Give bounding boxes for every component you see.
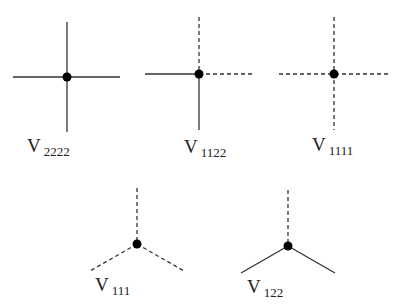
leg-lower-left-solid [241, 246, 288, 273]
vertex-v2222: V2222 [13, 22, 120, 159]
leg-lower-left-dashed [90, 244, 137, 271]
vertex-label: V2222 [27, 135, 70, 159]
vertex-dot [330, 70, 339, 79]
vertex-dot [133, 240, 142, 249]
leg-lower-right-solid [288, 246, 335, 273]
vertex-label: V122 [247, 276, 283, 300]
vertex-v111: V111 [90, 188, 184, 298]
vertex-dot [195, 70, 204, 79]
vertex-dot [284, 242, 293, 251]
leg-lower-right-dashed [137, 244, 184, 271]
vertex-diagram: V2222 V1122 V1111 V111 V122 [0, 0, 397, 305]
vertex-dot [63, 73, 72, 82]
vertex-v1122: V1122 [145, 17, 253, 160]
vertex-v122: V122 [241, 190, 335, 300]
vertex-label: V111 [95, 274, 130, 298]
vertex-label: V1111 [312, 134, 353, 158]
vertex-v1111: V1111 [279, 17, 390, 158]
vertex-label: V1122 [184, 136, 226, 160]
